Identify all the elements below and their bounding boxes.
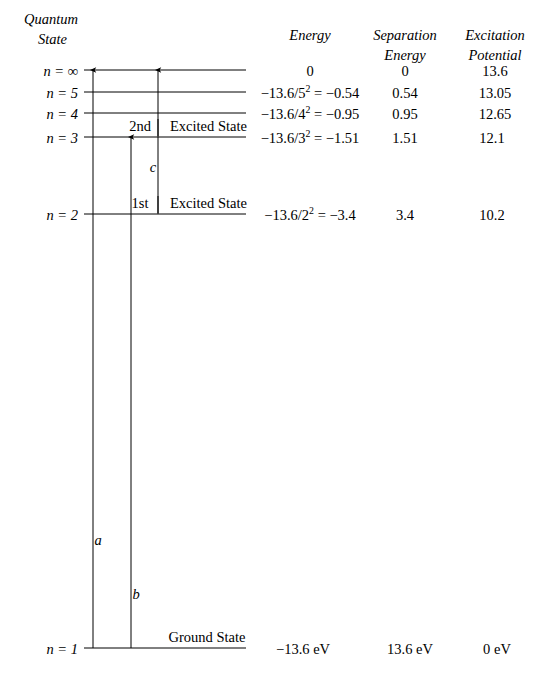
state-label-n-5: n = 5 — [46, 86, 78, 101]
diagram-lines-layer — [0, 0, 537, 681]
energy-value-n-4-suffix: = −0.95 — [310, 106, 359, 122]
energy-value-n-3: −13.6/32 = −1.51 — [261, 131, 360, 146]
energy-value-n-4-prefix: −13.6/4 — [261, 106, 306, 122]
state-label-n-infinity: n = ∞ — [43, 64, 78, 79]
energy-value-n-2-suffix: = −3.4 — [314, 207, 356, 223]
separation-value-n-2: 3.4 — [396, 208, 414, 223]
energy-value-n-3-prefix: −13.6/3 — [261, 130, 306, 146]
energy-value-n-5-prefix: −13.6/5 — [261, 85, 306, 101]
energy-value-n-5-suffix: = −0.54 — [310, 85, 359, 101]
energy-value-n-1: −13.6 eV — [276, 642, 330, 657]
quantum-state-header-line1: Quantum — [24, 12, 78, 27]
energy-value-n-4: −13.6/42 = −0.95 — [261, 107, 360, 122]
energy-value-n-2: −13.6/22 = −3.4 — [264, 208, 356, 223]
energy-value-n-5: −13.6/52 = −0.54 — [261, 86, 360, 101]
excitation-value-n-3: 12.1 — [479, 131, 504, 146]
annotation-2nd-excited-state: Excited State — [170, 119, 247, 134]
state-label-n-1: n = 1 — [46, 642, 78, 657]
excitation-value-n-1: 0 eV — [483, 642, 511, 657]
energy-level-diagram: Quantum State Energy Separation Energy E… — [0, 0, 537, 681]
column-header-separation-line2: Energy — [384, 48, 425, 63]
excitation-value-n-5: 13.05 — [479, 86, 512, 101]
annotation-1st-excited-state: Excited State — [170, 196, 247, 211]
annotation-ground-state: Ground State — [169, 630, 246, 645]
separation-value-n-4: 0.95 — [392, 107, 417, 122]
arrow-label-b: b — [132, 587, 139, 602]
separation-value-n-3: 1.51 — [392, 131, 417, 146]
energy-value-n-3-suffix: = −1.51 — [310, 130, 359, 146]
column-header-excitation-line2: Potential — [468, 48, 521, 63]
separation-value-n-5: 0.54 — [392, 86, 417, 101]
excitation-value-n-4: 12.65 — [479, 107, 512, 122]
separation-value-n-1: 13.6 eV — [387, 642, 433, 657]
quantum-state-header-line2: State — [38, 32, 67, 47]
column-header-excitation-line1: Excitation — [465, 28, 525, 43]
annotation-1st-ordinal: 1st — [132, 196, 149, 211]
arrow-label-a: a — [94, 533, 101, 548]
column-header-separation-line1: Separation — [373, 28, 437, 43]
state-label-n-3: n = 3 — [46, 131, 78, 146]
annotation-2nd-ordinal: 2nd — [129, 119, 151, 134]
state-label-n-4: n = 4 — [46, 107, 78, 122]
energy-value-n-2-prefix: −13.6/2 — [264, 207, 309, 223]
energy-value-n-infinity: 0 — [306, 64, 313, 79]
arrow-label-c: c — [150, 160, 156, 175]
excitation-value-n-infinity: 13.6 — [482, 64, 507, 79]
column-header-energy: Energy — [289, 28, 330, 43]
excitation-value-n-2: 10.2 — [479, 208, 504, 223]
state-label-n-2: n = 2 — [46, 208, 78, 223]
separation-value-n-infinity: 0 — [401, 64, 408, 79]
